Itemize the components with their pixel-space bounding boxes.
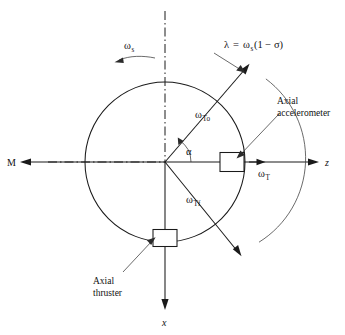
lambda-leader-line: [214, 53, 241, 70]
axial-thruster-box: [153, 230, 177, 247]
omega-T-label: ω: [258, 168, 265, 179]
omega-T-subscript: T: [266, 174, 271, 182]
lambda-omega-symbol: ω: [243, 39, 250, 50]
x-axis-arrowhead-icon: [161, 299, 168, 310]
technical-diagram-svg: M z x α ω s λ = ω s (1 − σ): [0, 0, 345, 335]
lambda-expression-tail: (1 − σ): [254, 39, 284, 51]
omega-Tf-label: ω: [186, 194, 193, 205]
accelerometer-label-line1: Axial: [277, 96, 298, 106]
thruster-label-line2: thruster: [93, 288, 123, 298]
x-axis-label: x: [161, 317, 167, 328]
spin-rate-label: ω: [124, 40, 131, 51]
omega-To-subscript: To: [203, 115, 211, 123]
moment-axis-label: M: [7, 157, 16, 168]
lambda-equals-sign: =: [233, 39, 239, 50]
omega-T-arrowhead-icon: [257, 159, 266, 165]
z-axis-label: z: [324, 157, 329, 168]
z-axis-arrowhead-icon: [308, 158, 319, 165]
spin-rate-subscript: s: [132, 46, 135, 54]
thruster-label-line1: Axial: [93, 276, 114, 286]
spin-direction-arc: [119, 56, 155, 60]
accelerometer-label-line2: accelerometer: [277, 108, 331, 118]
spin-direction-arrowhead-icon: [115, 58, 124, 64]
thruster-leader-line: [123, 241, 152, 272]
omega-To-label: ω: [195, 109, 202, 120]
lambda-symbol-label: λ: [224, 39, 230, 50]
figure-canvas: M z x α ω s λ = ω s (1 − σ): [0, 0, 345, 335]
alpha-angle-label: α: [186, 146, 192, 157]
omega-Tf-subscript: Tf: [194, 200, 201, 208]
accelerometer-leader-line: [240, 114, 279, 155]
moment-arrowhead-icon: [20, 158, 31, 165]
